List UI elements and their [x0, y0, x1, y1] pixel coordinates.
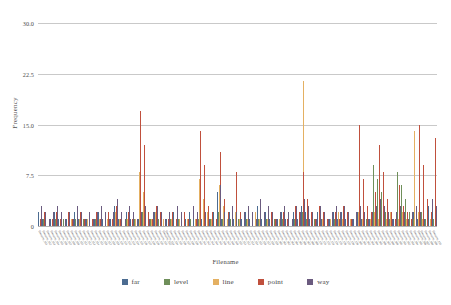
bar-way [436, 206, 437, 226]
y-axis-tick-label: 22.5 [23, 70, 34, 77]
plot-area: 07.515.022.530.0 [38, 23, 437, 227]
legend-label: point [268, 278, 283, 286]
legend-swatch-icon [307, 279, 313, 285]
legend-label: way [317, 278, 329, 286]
bar-far [66, 219, 67, 226]
bar-far [353, 219, 354, 226]
legend-item-line[interactable]: line [213, 278, 234, 286]
y-axis-tick-label: 0 [31, 223, 34, 230]
legend-swatch-icon [213, 279, 219, 285]
bar-far [130, 219, 131, 226]
legend-item-point[interactable]: point [258, 278, 283, 286]
legend-item-far[interactable]: far [122, 278, 140, 286]
y-axis-tick-label: 30.0 [23, 20, 34, 27]
y-axis-tick-label: 15.0 [23, 121, 34, 128]
chart-legend: farlevellinepointway [0, 278, 451, 286]
legend-item-level[interactable]: level [164, 278, 189, 286]
x-axis-title: Filename [0, 258, 451, 265]
chart-figure: Frequency 07.515.022.530.0 filename_001f… [0, 0, 451, 305]
x-tick: filename_100 [432, 229, 436, 259]
bar-far [166, 219, 167, 226]
legend-swatch-icon [122, 279, 128, 285]
bar-groups [38, 23, 437, 226]
bar-far [297, 219, 298, 226]
legend-swatch-icon [164, 279, 170, 285]
bar-far [173, 212, 174, 226]
legend-swatch-icon [258, 279, 264, 285]
bar-far [110, 219, 111, 226]
bar-far [249, 219, 250, 226]
y-axis-tick-label: 7.5 [26, 172, 34, 179]
y-axis-title: Frequency [1, 6, 9, 96]
bar-far [38, 212, 39, 226]
legend-label: level [174, 278, 189, 286]
bar-level [190, 219, 191, 226]
bar-far [241, 219, 242, 226]
bar-far [261, 219, 262, 226]
bar-far [393, 219, 394, 226]
bar-level [75, 219, 76, 226]
bar-group [432, 23, 436, 226]
x-axis-tick-labels: filename_001filename_002filename_003file… [38, 229, 437, 259]
bar-far [213, 212, 214, 226]
legend-label: line [223, 278, 234, 286]
bar-far [345, 219, 346, 226]
x-axis-line [38, 226, 437, 227]
legend-label: far [132, 278, 140, 286]
bar-level [63, 219, 64, 226]
legend-item-way[interactable]: way [307, 278, 329, 286]
bar-far [102, 219, 103, 226]
